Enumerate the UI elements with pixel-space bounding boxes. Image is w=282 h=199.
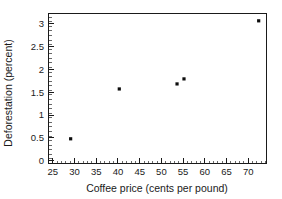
data-point	[175, 82, 178, 85]
x-tick-label: 30	[69, 166, 80, 177]
x-tick-label: 45	[134, 166, 145, 177]
y-tick-label: 3	[39, 18, 44, 29]
x-tick-label: 35	[91, 166, 102, 177]
y-tick-label: 1.5	[31, 87, 44, 98]
x-tick-label: 50	[156, 166, 167, 177]
chart-figure: 25303540455055606570 00.511.522.53 Coffe…	[0, 0, 282, 199]
y-tick-label: 0.5	[31, 132, 44, 143]
scatter-plot: 25303540455055606570 00.511.522.53 Coffe…	[0, 0, 282, 199]
x-tick-label: 25	[48, 166, 59, 177]
x-tick-label: 70	[243, 166, 254, 177]
x-tick-label: 40	[113, 166, 124, 177]
x-tick-label: 60	[200, 166, 211, 177]
x-axis-title: Coffee price (cents per pound)	[86, 182, 228, 194]
data-point	[257, 19, 260, 22]
x-tick-label: 55	[178, 166, 189, 177]
x-tick-label: 65	[221, 166, 232, 177]
y-tick-label: 1	[39, 109, 44, 120]
data-point	[69, 137, 72, 140]
data-point	[182, 77, 185, 80]
y-tick-label: 2.5	[31, 41, 44, 52]
data-point	[118, 87, 121, 90]
y-axis-title: Deforestation (percent)	[2, 39, 14, 146]
y-tick-label: 0	[39, 155, 44, 166]
y-tick-label: 2	[39, 64, 44, 75]
